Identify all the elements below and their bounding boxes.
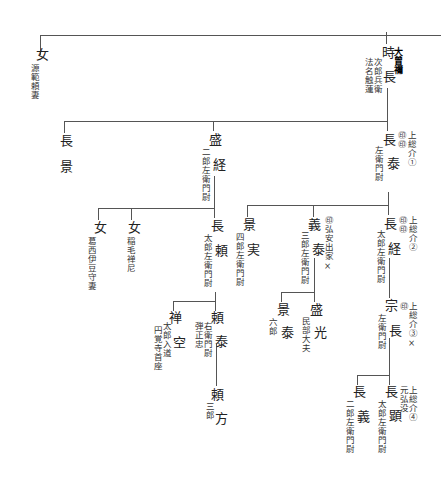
person-nagatsune-top: 長	[382, 217, 396, 230]
connector-line	[216, 344, 217, 386]
connector-line	[389, 258, 390, 298]
person-onna-top-note: 源範頼妻	[28, 64, 38, 100]
connector-line	[247, 205, 248, 217]
person-zenku-note2: 円覚寺首座	[151, 326, 161, 371]
connector-line	[386, 32, 387, 44]
person-nagatsune-note: 太郎左衛門尉	[374, 230, 384, 284]
person-onna-top: 女	[34, 48, 48, 61]
connector-line	[214, 208, 215, 218]
person-yoriyasu-note2: 弾正忠	[192, 322, 202, 349]
connector-line	[388, 205, 389, 215]
connector-line	[215, 301, 216, 311]
person-nagayasu-top: 長	[381, 133, 395, 146]
person-yoriyasu-bottom: 泰	[213, 335, 227, 348]
person-nagaaki-note: 太郎左衛門尉	[375, 400, 385, 454]
person-nagayori-bottom: 頼	[213, 244, 227, 257]
person-nagayasu-bottom: 泰	[385, 157, 399, 170]
person-onna-a-note: 葛西伊豆守妻	[85, 237, 95, 291]
person-zenku-bottom: 空	[171, 336, 185, 349]
person-morimitsu-note: 民部大夫	[299, 317, 309, 353]
connector-line	[98, 208, 99, 220]
person-nagayasu-marks: ㊞㊞	[395, 131, 405, 149]
person-nagayoshi-top: 長	[351, 385, 365, 398]
person-tokinaga-top: 時	[380, 46, 394, 59]
person-yoshiyasu-top: 義	[306, 218, 320, 231]
person-morotsune-bottom: 経	[211, 158, 225, 171]
person-nagayoshi-note: 二郎左衛門尉	[343, 400, 353, 454]
connector-line	[64, 121, 65, 133]
person-nagayasu-title: 上総介①	[405, 131, 415, 167]
person-nagayori-note: 太郎左衛門尉	[201, 234, 211, 288]
connector-line	[64, 121, 388, 122]
connector-line	[314, 258, 315, 293]
person-kageyasu-note: 六郎	[266, 318, 276, 336]
person-nagayoshi-bottom: 義	[355, 410, 369, 423]
connector-line	[313, 205, 314, 217]
person-morotsune-note: 二郎左衛門尉	[199, 148, 209, 202]
person-morimitsu-top: 盛	[308, 303, 322, 316]
person-nagakage-top: 長	[58, 134, 72, 147]
connector-line	[387, 88, 388, 122]
person-kageyasu-top: 景	[275, 303, 289, 316]
connector-line	[214, 176, 215, 208]
person-nagayasu-note: 左衛門尉	[372, 146, 382, 182]
connector-line	[281, 292, 315, 293]
person-tokinaga-note2: 法名触蓮	[362, 58, 372, 94]
person-nagatsune-title: 上総介②	[406, 216, 416, 252]
person-munenaga-bottom: 長	[387, 324, 401, 337]
person-nagatsune-marks: ㊞㊞	[396, 216, 406, 234]
connector-line	[314, 292, 315, 302]
person-kagezane-top: 景	[241, 218, 255, 231]
person-yorikata-bottom: 方	[213, 412, 227, 425]
clan-label-osone: 大曾禰	[393, 47, 403, 74]
person-kageyasu-bottom: 泰	[279, 326, 293, 339]
person-kagezane-note: 四郎左衛門尉	[233, 233, 243, 287]
person-yoshiyasu-note: 三郎左衛門尉	[298, 231, 308, 285]
connector-line	[357, 375, 390, 376]
connector-line	[247, 205, 389, 206]
connector-line	[389, 375, 390, 385]
connector-line	[388, 192, 389, 206]
connector-line	[131, 208, 132, 220]
person-morotsune-top: 盛	[207, 133, 221, 146]
person-onna-b-note: 稲毛禅尼	[124, 237, 134, 273]
connector-line	[213, 121, 214, 131]
person-onna-a: 女	[92, 221, 106, 234]
connector-line	[389, 338, 390, 376]
person-nagakage-bottom: 景	[58, 160, 72, 173]
person-nagatsune-bottom: 経	[386, 242, 400, 255]
connector-line	[40, 35, 441, 36]
person-yoshiyasu-title: ㊞弘安出家×	[322, 216, 332, 271]
person-munenaga-top: 宗	[383, 299, 397, 312]
connector-line	[357, 375, 358, 385]
person-nagaaki-top: 長	[383, 385, 397, 398]
connector-line	[98, 208, 215, 209]
person-munenaga-title: 上総介③×	[406, 302, 416, 348]
connector-line	[173, 301, 174, 311]
person-nagayori-top: 長	[209, 219, 223, 232]
connector-line	[281, 292, 282, 302]
person-onna-b: 女	[126, 221, 140, 234]
person-yorikata-note: 三郎	[203, 402, 213, 420]
connector-line	[387, 121, 388, 131]
person-kagezane-bottom: 実	[245, 243, 259, 256]
person-munenaga-note: 左衛門尉	[375, 314, 385, 350]
connector-line	[173, 301, 216, 302]
person-morimitsu-bottom: 光	[312, 326, 326, 339]
person-yorikata-top: 頼	[209, 388, 223, 401]
person-nagaaki-title2: 元弘没	[397, 386, 407, 413]
